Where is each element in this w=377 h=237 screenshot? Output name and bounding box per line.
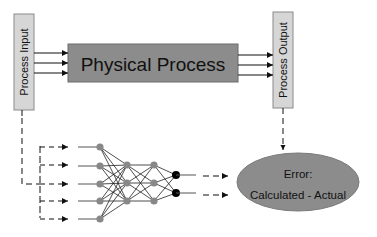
neural-network (78, 143, 196, 222)
error-node: Error: Calculated - Actual (237, 153, 359, 211)
diagram-canvas: Process Input Physical Process Process O… (0, 0, 377, 237)
input-to-network-dashed-path (22, 110, 40, 184)
process-output-box: Process Output (273, 12, 293, 108)
physical-process-label: Physical Process (81, 54, 226, 75)
process-output-label: Process Output (277, 22, 289, 98)
process-input-box: Process Input (14, 14, 34, 110)
error-label-line2: Calculated - Actual (250, 189, 346, 201)
network-to-error-arrows (203, 176, 228, 195)
process-input-label: Process Input (18, 28, 30, 95)
physical-process-box: Physical Process (68, 44, 238, 82)
input-layer-nodes (96, 143, 103, 222)
error-label-line1: Error: (284, 168, 313, 180)
input-to-process-arrows (34, 53, 68, 73)
network-input-arrows (40, 147, 68, 219)
process-to-output-arrows (238, 55, 273, 75)
